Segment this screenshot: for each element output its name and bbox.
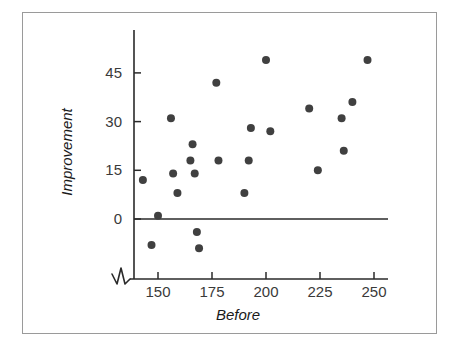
- x-axis-tick-label: 175: [199, 283, 224, 300]
- scatter-plot-canvas: 1501752002252500153045 Improvement Befor…: [0, 0, 459, 349]
- data-point: [245, 157, 253, 165]
- x-axis-tick-label: 225: [307, 283, 332, 300]
- data-point: [305, 105, 313, 113]
- x-axis-tick-label: 250: [361, 283, 386, 300]
- data-point: [193, 228, 201, 236]
- data-point: [214, 157, 222, 165]
- data-point: [186, 157, 194, 165]
- data-point: [212, 79, 220, 87]
- x-axis-title: Before: [216, 306, 260, 323]
- data-point: [167, 114, 175, 122]
- y-axis-tick-label: 0: [114, 210, 122, 227]
- axis-break-icon: [112, 268, 130, 284]
- data-point: [148, 241, 156, 249]
- data-point: [189, 140, 197, 148]
- data-point: [195, 244, 203, 252]
- data-point: [338, 114, 346, 122]
- data-point: [340, 147, 348, 155]
- x-axis-tick-label: 150: [145, 283, 170, 300]
- y-axis-tick-label: 15: [105, 161, 122, 178]
- data-point: [266, 127, 274, 135]
- data-point: [240, 189, 248, 197]
- y-axis-tick-label: 30: [105, 113, 122, 130]
- data-point: [191, 170, 199, 178]
- y-axis-title: Improvement: [58, 107, 75, 195]
- data-point: [169, 170, 177, 178]
- data-point: [154, 212, 162, 220]
- data-point: [314, 166, 322, 174]
- data-point: [173, 189, 181, 197]
- data-point: [262, 56, 270, 64]
- scatter-plot-figure: 1501752002252500153045 Improvement Befor…: [0, 0, 459, 349]
- data-point: [247, 124, 255, 132]
- x-axis-tick-label: 200: [253, 283, 278, 300]
- data-point: [348, 98, 356, 106]
- y-axis-tick-label: 45: [105, 64, 122, 81]
- data-points-group: [139, 56, 372, 252]
- axis-ticks-group: 1501752002252500153045: [105, 64, 386, 300]
- data-point: [364, 56, 372, 64]
- data-point: [139, 176, 147, 184]
